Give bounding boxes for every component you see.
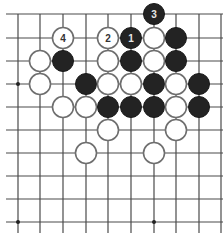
white-stone: [144, 143, 165, 164]
move-number-label: 2: [105, 33, 111, 44]
white-stone-disc: [30, 51, 51, 72]
white-stone-disc: [166, 97, 187, 118]
black-stone-disc: [189, 74, 210, 95]
star-point: [152, 220, 156, 224]
black-stone-disc: [98, 97, 119, 118]
white-stone-disc: [98, 120, 119, 141]
black-stone-disc: [76, 74, 97, 95]
black-stone-disc: [144, 74, 165, 95]
white-stone: [76, 143, 97, 164]
black-stone-disc: [53, 51, 74, 72]
star-point: [16, 220, 20, 224]
white-stone-disc: [76, 97, 97, 118]
white-stone-disc: [144, 51, 165, 72]
white-stone: [121, 74, 142, 95]
black-stone: [144, 97, 165, 118]
white-stone: [76, 97, 97, 118]
go-board: 3421: [0, 0, 223, 244]
white-stone-disc: [144, 28, 165, 49]
black-stone-disc: [144, 97, 165, 118]
white-stone-disc: [76, 143, 97, 164]
white-stone: [166, 74, 187, 95]
white-stone: [98, 120, 119, 141]
black-stone: 3: [144, 4, 165, 25]
black-stone-disc: [166, 28, 187, 49]
white-stone: [98, 51, 119, 72]
white-stone: [30, 51, 51, 72]
white-stone: [166, 120, 187, 141]
black-stone: 1: [121, 28, 142, 49]
white-stone-disc: [144, 143, 165, 164]
white-stone-disc: [166, 120, 187, 141]
move-number-label: 1: [128, 33, 134, 44]
black-stone-disc: [121, 97, 142, 118]
black-stone: [76, 74, 97, 95]
black-stone-disc: [166, 51, 187, 72]
black-stone: [121, 51, 142, 72]
move-number-label: 3: [151, 9, 157, 20]
white-stone: [144, 51, 165, 72]
white-stone-disc: [53, 97, 74, 118]
move-number-label: 4: [60, 33, 66, 44]
white-stone-disc: [98, 51, 119, 72]
black-stone: [166, 28, 187, 49]
white-stone: [98, 74, 119, 95]
white-stone-disc: [98, 74, 119, 95]
white-stone-disc: [121, 74, 142, 95]
black-stone: [189, 74, 210, 95]
white-stone: [144, 28, 165, 49]
white-stone: [53, 97, 74, 118]
black-stone: [166, 51, 187, 72]
black-stone: [98, 97, 119, 118]
black-stone: [144, 74, 165, 95]
white-stone: [166, 97, 187, 118]
black-stone-disc: [189, 97, 210, 118]
go-board-diagram: 3421: [0, 0, 223, 244]
white-stone-disc: [166, 74, 187, 95]
black-stone-disc: [121, 51, 142, 72]
black-stone: [121, 97, 142, 118]
black-stone: [53, 51, 74, 72]
white-stone: 4: [53, 28, 74, 49]
star-point: [16, 82, 20, 86]
white-stone: [30, 74, 51, 95]
white-stone-disc: [30, 74, 51, 95]
white-stone: 2: [98, 28, 119, 49]
black-stone: [189, 97, 210, 118]
